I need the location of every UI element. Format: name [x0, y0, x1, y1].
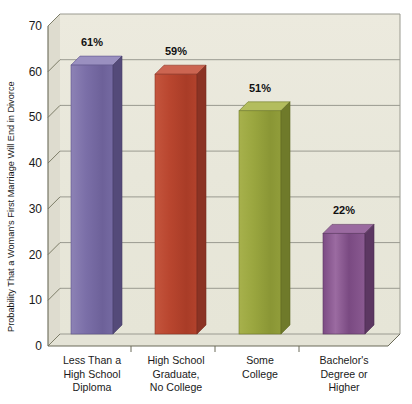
x-tick-label-2: Some College [242, 354, 278, 380]
y-tick-60: 60 [29, 65, 43, 79]
divorce-probability-bar-chart: 61% 59% 51% 22% [0, 0, 412, 404]
svg-text:High School: High School [147, 354, 204, 366]
y-tick-20: 20 [29, 248, 43, 262]
x-tick-label-1: High School Graduate, No College [147, 354, 204, 393]
y-axis-title: Probability That a Woman's First Marriag… [6, 81, 16, 332]
data-label-2: 51% [249, 82, 271, 94]
chart-svg: 61% 59% 51% 22% [0, 0, 412, 404]
svg-text:High School: High School [63, 368, 120, 380]
svg-text:Bachelor's: Bachelor's [319, 354, 368, 366]
y-tick-30: 30 [29, 202, 43, 216]
svg-text:Less Than a: Less Than a [63, 354, 121, 366]
y-tick-50: 50 [29, 110, 43, 124]
y-tick-10: 10 [29, 293, 43, 307]
y-tick-40: 40 [29, 156, 43, 170]
data-label-0: 61% [81, 36, 103, 48]
plot-left-wall [48, 14, 60, 346]
svg-text:Some: Some [246, 354, 274, 366]
svg-text:No College: No College [150, 381, 203, 393]
plot-floor [48, 334, 400, 346]
bar-high-school-graduate[interactable] [155, 65, 206, 334]
data-label-3: 22% [333, 204, 355, 216]
svg-text:Higher: Higher [328, 381, 360, 393]
bar-bachelors-degree-or-higher[interactable] [323, 224, 374, 334]
svg-text:College: College [242, 368, 278, 380]
bar-less-than-high-school[interactable] [71, 56, 122, 334]
svg-text:Graduate,: Graduate, [152, 368, 199, 380]
bar-some-college[interactable] [239, 102, 290, 334]
data-label-1: 59% [165, 45, 187, 57]
y-tick-0: 0 [35, 339, 42, 353]
svg-text:Diploma: Diploma [73, 381, 112, 393]
y-tick-70: 70 [29, 19, 43, 33]
svg-text:Degree or: Degree or [320, 368, 368, 380]
